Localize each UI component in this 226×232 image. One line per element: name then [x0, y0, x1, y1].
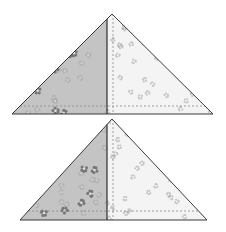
- quilt-diagram: [0, 0, 226, 232]
- dark-fabric-half: [10, 12, 107, 116]
- top-triangle: [10, 10, 216, 117]
- dark-floral-print: [16, 117, 107, 217]
- bottom-triangle: [16, 117, 209, 222]
